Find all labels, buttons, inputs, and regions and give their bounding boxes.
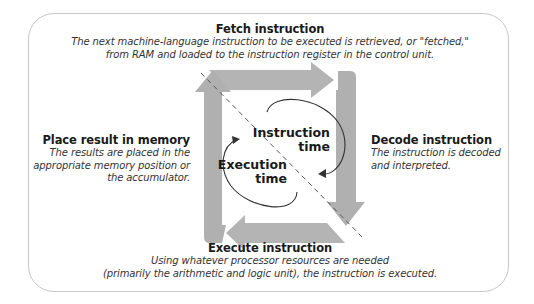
step-place-desc-line-3: the accumulator.	[20, 172, 190, 185]
instruction-time-line-2: time	[240, 140, 330, 154]
execution-time-arrowhead	[232, 136, 240, 144]
step-decode-desc-line-2: and interpreted.	[371, 160, 521, 173]
step-execute-desc-line-1: Using whatever processor resources are n…	[60, 255, 480, 268]
step-execute-desc-line-2: (primarily the arithmetic and logic unit…	[60, 268, 480, 281]
step-fetch-title: Fetch instruction	[60, 22, 480, 36]
step-fetch-desc-line-2: from RAM and loaded to the instruction r…	[60, 49, 480, 62]
execution-time-line-2: time	[200, 172, 287, 186]
decode-to-execute-arrow	[327, 71, 365, 226]
step-decode-title: Decode instruction	[371, 133, 521, 147]
step-place: Place result in memory The results are p…	[20, 133, 190, 185]
execution-time-line-1: Execution	[200, 158, 287, 172]
instruction-time-label: Instruction time	[240, 126, 330, 154]
execution-time-label: Execution time	[200, 158, 287, 186]
step-fetch: Fetch instruction The next machine-langu…	[60, 22, 480, 61]
step-execute-title: Execute instruction	[60, 241, 480, 255]
step-fetch-desc-line-1: The next machine-language instruction to…	[60, 36, 480, 49]
instruction-time-line-1: Instruction	[240, 126, 330, 140]
step-place-desc-line-2: appropriate memory position or	[20, 160, 190, 173]
step-place-title: Place result in memory	[20, 133, 190, 147]
step-place-desc-line-1: The results are placed in the	[20, 147, 190, 160]
step-decode-desc-line-1: The instruction is decoded	[371, 147, 521, 160]
step-execute: Execute instruction Using whatever proce…	[60, 241, 480, 280]
step-decode: Decode instruction The instruction is de…	[371, 133, 521, 172]
fetch-to-decode-arrow	[209, 62, 334, 98]
instruction-time-arrowhead	[318, 169, 326, 178]
